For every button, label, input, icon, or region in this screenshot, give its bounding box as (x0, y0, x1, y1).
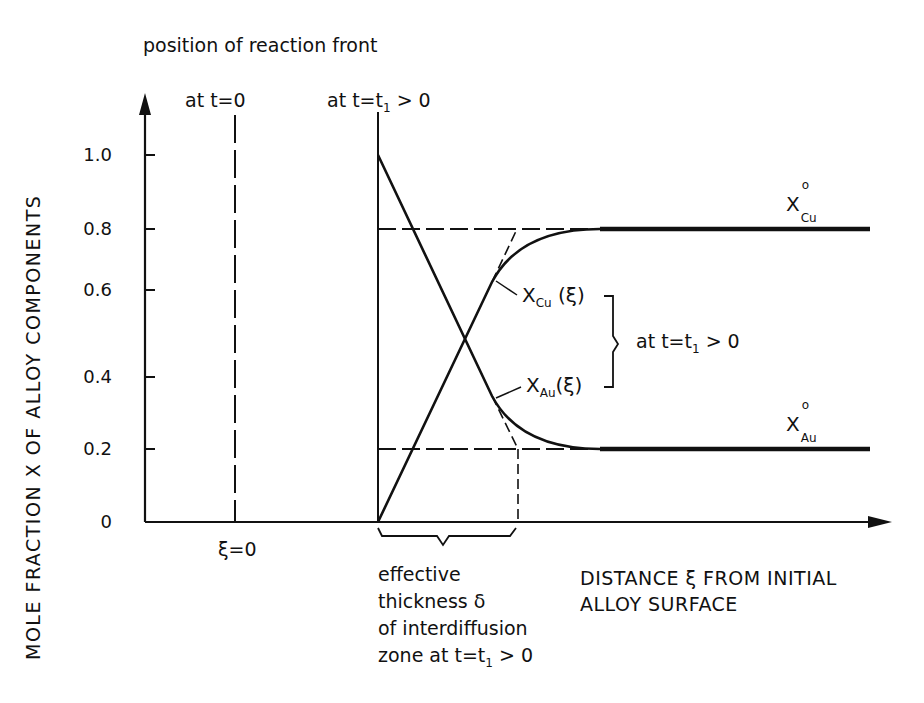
bracket-label-suffix: > 0 (700, 330, 740, 352)
au-curve-label-arg: (ξ) (556, 373, 583, 397)
annotation-line4-sub: 1 (485, 656, 493, 670)
x-axis-label-line1: DISTANCE ξ FROM INITIAL (580, 567, 837, 589)
y-tick-1.0: 1.0 (72, 144, 112, 165)
annotation-line2: thickness δ (378, 590, 485, 612)
bracket-label: at t=t1 > 0 (636, 330, 740, 356)
y-axis-arrow-icon (139, 93, 151, 115)
y-tick-0.8: 0.8 (72, 218, 112, 239)
bracket-label-sub: 1 (692, 342, 700, 356)
annotation-line4: zone at t=t1 > 0 (378, 644, 533, 670)
origin-label: ξ=0 (218, 538, 257, 560)
front-label-t1: at t=t1 > 0 (327, 89, 431, 115)
cu-curve-label-arg: (ξ) (552, 283, 585, 307)
x-axis-arrow-icon (868, 516, 892, 528)
y-tick-0.6: 0.6 (72, 279, 112, 300)
curves-brace (604, 296, 618, 387)
au-curve-label: XAu(ξ) (526, 373, 582, 400)
bulk-cu-label-sub: Cu (801, 211, 817, 225)
delta-brace (378, 528, 516, 545)
au-curve-label-base: X (526, 373, 540, 397)
bulk-cu-label: XoCu (786, 192, 816, 219)
y-tick-0: 0 (72, 511, 112, 532)
x-axis-label-line2: ALLOY SURFACE (580, 593, 738, 615)
bulk-au-label-sub: Au (801, 431, 817, 445)
bulk-au-label-base: X (786, 412, 800, 436)
y-tick-0.4: 0.4 (72, 366, 112, 387)
front-label-t1-sub: 1 (383, 101, 391, 115)
front-label-t1-suffix: > 0 (391, 89, 431, 111)
bulk-au-label: XoAu (786, 412, 816, 439)
y-ticks (145, 155, 155, 449)
bulk-au-label-sup: o (802, 398, 809, 412)
bulk-cu-label-base: X (786, 192, 800, 216)
annotation-line4-suffix: > 0 (493, 644, 533, 666)
front-label-t0: at t=0 (185, 89, 246, 111)
annotation-line1: effective (378, 563, 461, 585)
au-leader (496, 387, 521, 398)
cu-curve-label-sub: Cu (536, 296, 552, 310)
cu-leader (496, 281, 517, 295)
annotation-line3: of interdiffusion (378, 617, 528, 639)
bulk-cu-label-sup: o (802, 178, 809, 192)
annotation-line4-text: zone at t=t (378, 644, 485, 666)
y-axis-label: MOLE FRACTION X OF ALLOY COMPONENTS (22, 195, 44, 660)
cu-curve-label-base: X (522, 283, 536, 307)
au-curve-label-sub: Au (540, 386, 556, 400)
front-label-t1-text: at t=t (327, 89, 383, 111)
bracket-label-text: at t=t (636, 330, 692, 352)
diagram-title: position of reaction front (143, 34, 377, 56)
y-tick-0.2: 0.2 (72, 438, 112, 459)
cu-curve-label: XCu (ξ) (522, 283, 585, 310)
